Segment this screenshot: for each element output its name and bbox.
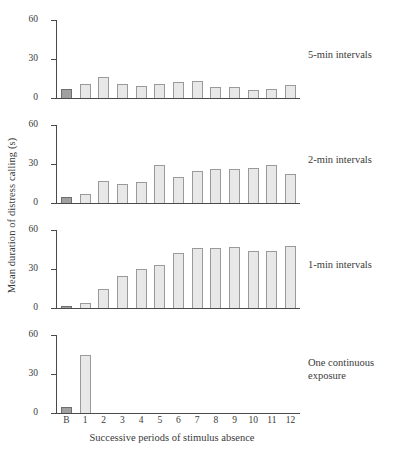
y-tick-0 bbox=[51, 413, 56, 414]
bar bbox=[285, 174, 296, 203]
y-tick-label-0: 0 bbox=[18, 197, 38, 207]
y-axis-label: Mean duration of distress calling (s) bbox=[7, 137, 18, 293]
bar bbox=[173, 253, 184, 308]
x-tick-label: 2 bbox=[94, 415, 113, 425]
bar-cell bbox=[57, 125, 76, 203]
y-tick-label-30: 30 bbox=[18, 263, 38, 273]
bar-cell bbox=[76, 335, 95, 413]
x-tick-label: B bbox=[57, 415, 76, 425]
bar bbox=[117, 184, 128, 204]
x-tick-label: 5 bbox=[150, 415, 169, 425]
y-tick-label-60: 60 bbox=[18, 329, 38, 339]
bar bbox=[210, 169, 221, 203]
bar-cell bbox=[244, 125, 263, 203]
bar-cell bbox=[263, 230, 282, 308]
bar-cell bbox=[76, 230, 95, 308]
bar bbox=[154, 84, 165, 98]
x-tick-label: 10 bbox=[244, 415, 263, 425]
bar-cell bbox=[76, 125, 95, 203]
bar-cell bbox=[94, 230, 113, 308]
x-tick-label: 7 bbox=[188, 415, 207, 425]
y-tick-label-30: 30 bbox=[18, 53, 38, 63]
bar-cell bbox=[94, 125, 113, 203]
bar bbox=[192, 171, 203, 204]
bar-cell bbox=[150, 20, 169, 98]
bar bbox=[136, 182, 147, 203]
y-tick-60 bbox=[51, 125, 56, 126]
bar-cell bbox=[132, 230, 151, 308]
y-tick-30 bbox=[51, 164, 56, 165]
bar-cell bbox=[94, 20, 113, 98]
panel-5-min-intervals: 60 30 0 bbox=[44, 20, 300, 102]
bar-cell bbox=[169, 125, 188, 203]
bar-cell bbox=[132, 20, 151, 98]
bar-cell bbox=[132, 125, 151, 203]
y-tick-30 bbox=[51, 374, 56, 375]
bar bbox=[173, 177, 184, 203]
x-tick-label: 11 bbox=[263, 415, 282, 425]
y-tick-label-30: 30 bbox=[18, 368, 38, 378]
bar bbox=[229, 169, 240, 203]
bar bbox=[248, 168, 259, 203]
bar bbox=[266, 251, 277, 308]
bar-cell bbox=[169, 20, 188, 98]
bar-cell bbox=[150, 335, 169, 413]
bar-cell bbox=[57, 230, 76, 308]
bar bbox=[248, 90, 259, 98]
bar bbox=[136, 86, 147, 98]
bar-series bbox=[57, 335, 300, 413]
bar-cell bbox=[225, 125, 244, 203]
x-axis-line bbox=[56, 413, 300, 414]
bar bbox=[229, 87, 240, 98]
bar bbox=[98, 289, 109, 309]
bar-cell bbox=[113, 125, 132, 203]
y-tick-0 bbox=[51, 308, 56, 309]
bar-cell bbox=[169, 230, 188, 308]
x-tick-label: 9 bbox=[225, 415, 244, 425]
bar-cell bbox=[263, 335, 282, 413]
panel-label-2-min: 2-min intervals bbox=[308, 153, 372, 166]
y-axis-label-container: Mean duration of distress calling (s) bbox=[2, 0, 22, 430]
y-tick-label-60: 60 bbox=[18, 14, 38, 24]
bar-cell bbox=[263, 125, 282, 203]
bar-cell bbox=[188, 335, 207, 413]
y-tick-60 bbox=[51, 230, 56, 231]
bar-cell bbox=[188, 20, 207, 98]
y-tick-60 bbox=[51, 20, 56, 21]
bar-cell bbox=[225, 335, 244, 413]
bar bbox=[80, 194, 91, 203]
bar-cell bbox=[207, 335, 226, 413]
bar bbox=[154, 265, 165, 308]
y-tick-label-60: 60 bbox=[18, 224, 38, 234]
bar-cell bbox=[150, 230, 169, 308]
x-tick-label: 6 bbox=[169, 415, 188, 425]
panel-label-continuous: One continuous exposure bbox=[308, 356, 374, 382]
panel-one-continuous-exposure: 60 30 0 bbox=[44, 335, 300, 417]
y-tick-30 bbox=[51, 59, 56, 60]
bar-series bbox=[57, 20, 300, 98]
bar-baseline bbox=[61, 407, 72, 414]
panel-2-min-intervals: 60 30 0 bbox=[44, 125, 300, 207]
x-tick-label: 8 bbox=[207, 415, 226, 425]
bar-cell bbox=[281, 125, 300, 203]
bar-cell bbox=[225, 230, 244, 308]
bar bbox=[266, 89, 277, 98]
x-tick-label: 3 bbox=[113, 415, 132, 425]
y-tick-label-0: 0 bbox=[18, 302, 38, 312]
bar bbox=[210, 87, 221, 98]
x-axis-line bbox=[56, 203, 300, 204]
y-tick-60 bbox=[51, 335, 56, 336]
x-tick-label: 12 bbox=[281, 415, 300, 425]
bar-cell bbox=[225, 20, 244, 98]
plot-area bbox=[57, 20, 300, 98]
bar bbox=[285, 85, 296, 98]
bar-cell bbox=[169, 335, 188, 413]
bar-cell bbox=[263, 20, 282, 98]
bar-cell bbox=[113, 230, 132, 308]
bar-baseline bbox=[61, 89, 72, 98]
plot-area bbox=[57, 230, 300, 308]
bar-cell bbox=[244, 230, 263, 308]
bar-cell bbox=[132, 335, 151, 413]
bar-cell bbox=[76, 20, 95, 98]
x-tick-label: 1 bbox=[76, 415, 95, 425]
